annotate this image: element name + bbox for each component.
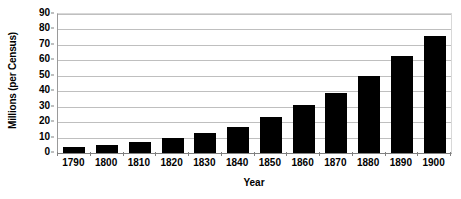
x-axis-tick-mark <box>286 152 287 156</box>
bar <box>162 138 184 153</box>
x-axis-tick-mark <box>90 152 91 156</box>
y-axis-tick-mark <box>51 105 54 106</box>
bar <box>391 56 413 153</box>
y-axis-tick-mark <box>51 13 54 14</box>
y-axis-tick-label: 60 <box>39 54 50 64</box>
y-axis-tick-mark <box>51 121 54 122</box>
y-axis-tick-label: 50 <box>39 70 50 80</box>
x-axis-tick-mark <box>221 152 222 156</box>
x-axis-tick-marks <box>57 152 451 156</box>
plot-area <box>57 13 452 154</box>
x-axis-tick-mark <box>188 152 189 156</box>
y-axis-tick-mark <box>51 28 54 29</box>
bar <box>358 76 380 153</box>
y-axis-tick-label: 90 <box>39 8 50 18</box>
bars-layer <box>58 14 451 153</box>
y-axis-tick-mark <box>51 152 54 153</box>
y-axis-tick-label: 30 <box>39 101 50 111</box>
x-axis-tick-label: 1850 <box>259 157 281 169</box>
x-axis-tick-mark <box>319 152 320 156</box>
x-axis-tick-label: 1810 <box>128 157 150 169</box>
x-axis-tick-mark <box>385 152 386 156</box>
y-axis-title: Millions (per Census) <box>0 0 24 160</box>
x-axis-tick-mark <box>254 152 255 156</box>
y-axis-tick-label: 40 <box>39 85 50 95</box>
x-axis-tick-mark <box>450 152 451 156</box>
x-axis-tick-mark <box>57 152 58 156</box>
x-axis-tick-label: 1840 <box>226 157 248 169</box>
x-axis-tick-labels: 1790180018101820183018401850186018701880… <box>57 157 451 171</box>
bar <box>194 133 216 153</box>
x-axis-tick-label: 1900 <box>423 157 445 169</box>
bar <box>424 36 446 153</box>
y-axis-tick-mark <box>51 59 54 60</box>
x-axis-tick-mark <box>352 152 353 156</box>
x-axis-title: Year <box>57 177 451 188</box>
y-axis-tick-mark <box>51 136 54 137</box>
y-axis-tick-label: 80 <box>39 23 50 33</box>
x-axis-tick-label: 1880 <box>357 157 379 169</box>
bar-chart: Millions (per Census) 010203040506070809… <box>0 0 461 199</box>
x-axis-tick-mark <box>155 152 156 156</box>
bar <box>227 127 249 153</box>
y-axis-tick-label: 10 <box>39 132 50 142</box>
x-axis-tick-mark <box>417 152 418 156</box>
y-axis-tick-mark <box>51 90 54 91</box>
y-axis-tick-mark <box>51 74 54 75</box>
y-axis-tick-label: 70 <box>39 39 50 49</box>
bar <box>260 117 282 153</box>
x-axis-tick-label: 1890 <box>390 157 412 169</box>
x-axis-tick-label: 1790 <box>62 157 84 169</box>
y-axis-tick-labels: 0102030405060708090 <box>24 13 54 152</box>
y-axis-title-label: Millions (per Census) <box>7 32 18 129</box>
x-axis-tick-label: 1830 <box>193 157 215 169</box>
x-axis-tick-label: 1860 <box>292 157 314 169</box>
x-axis-tick-label: 1800 <box>95 157 117 169</box>
y-axis-tick-label: 0 <box>44 147 50 157</box>
x-axis-tick-label: 1820 <box>161 157 183 169</box>
bar <box>293 105 315 153</box>
y-axis-tick-mark <box>51 43 54 44</box>
x-axis-tick-label: 1870 <box>324 157 346 169</box>
x-axis-tick-mark <box>123 152 124 156</box>
bar <box>325 93 347 153</box>
y-axis-tick-label: 20 <box>39 116 50 126</box>
